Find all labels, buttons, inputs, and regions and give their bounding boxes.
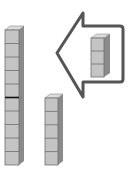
tall-stack (5, 26, 24, 165)
cube-diagram (0, 0, 133, 171)
arrow-stack (91, 34, 110, 77)
short-stack (45, 94, 63, 165)
left-arrow-icon (57, 13, 123, 97)
